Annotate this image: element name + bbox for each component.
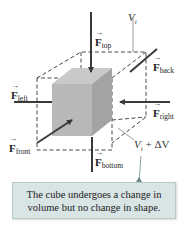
callout-text: The cube undergoes a change in volume bu… xyxy=(17,188,171,214)
label-force-left: Fleft xyxy=(11,90,28,103)
compressed-cube xyxy=(52,68,112,136)
label-force-top: Ftop xyxy=(95,37,111,50)
label-force-right: Fright xyxy=(153,108,174,121)
label-initial-volume: Vi xyxy=(128,11,137,26)
label-final-volume: Vi + ΔV xyxy=(134,138,169,153)
label-force-front: Ffront xyxy=(9,143,30,156)
explanation-callout: The cube undergoes a change in volume bu… xyxy=(12,182,176,219)
label-force-bottom: Fbottom xyxy=(95,157,123,170)
label-force-back: Fback xyxy=(153,62,174,75)
